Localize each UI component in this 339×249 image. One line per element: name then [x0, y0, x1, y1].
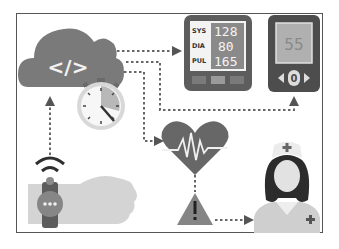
bp-dia-value: 80 — [218, 39, 234, 54]
glucometer-icon: 55 0 — [268, 15, 320, 92]
bp-sys-label: SYS — [192, 27, 206, 35]
stopwatch-icon — [77, 78, 125, 130]
cloud-code-icon: </> — [18, 29, 124, 88]
warning-triangle-icon — [177, 193, 213, 225]
glucometer-button: 0 — [291, 73, 298, 84]
heart-pulse-icon — [161, 121, 228, 175]
nurse-icon — [254, 142, 320, 234]
diagram-canvas: </> SYS DIA PUL 128 — [0, 0, 339, 249]
watch-face-dots — [43, 202, 57, 206]
bp-pul-label: PUL — [192, 57, 206, 65]
bp-sys-value: 128 — [214, 24, 237, 39]
bp-pul-value: 165 — [214, 54, 237, 69]
cloud-label: </> — [48, 55, 89, 79]
bp-dia-label: DIA — [192, 42, 205, 50]
smartwatch-wrist-icon — [28, 158, 137, 228]
blood-pressure-monitor-icon: SYS DIA PUL 128 80 165 — [184, 15, 252, 91]
edge-cloud-to-heart — [124, 72, 162, 141]
glucometer-reading: 55 — [284, 35, 303, 54]
